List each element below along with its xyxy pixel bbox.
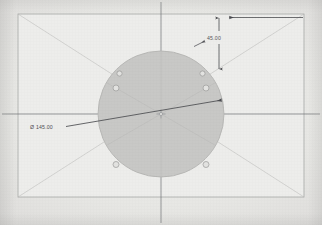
vertical-offset-dimension-label: 45.00 <box>207 35 221 41</box>
bolt-hole <box>113 162 119 168</box>
bolt-hole <box>117 71 122 76</box>
bolt-hole <box>203 162 209 168</box>
technical-drawing-canvas: Ø 145.00 45.00 <box>0 0 322 225</box>
cad-drawing-page: Ø 145.00 45.00 <box>0 0 322 225</box>
bolt-hole <box>200 71 205 76</box>
bolt-hole <box>203 85 209 91</box>
bolt-hole <box>113 85 119 91</box>
diameter-dimension-label: Ø 145.00 <box>30 124 53 130</box>
